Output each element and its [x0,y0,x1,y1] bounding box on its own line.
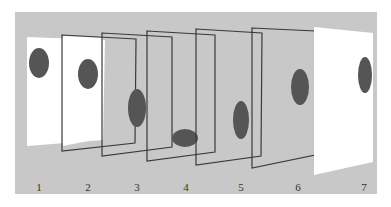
frame-4-blob [172,129,198,147]
frame-2-fill [63,36,103,146]
frame-label-5: 5 [238,181,244,193]
frame-label-6: 6 [295,181,301,193]
frame-7-blob [358,57,372,93]
frame-6-blob [291,69,309,105]
frame-label-4: 4 [183,181,189,193]
frame-2-blob [78,59,98,89]
frame-label-2: 2 [85,181,91,193]
frame-label-1: 1 [36,181,42,193]
frame-1-blob [29,48,49,78]
frame-7-sheet [314,27,373,175]
diagram-canvas: 1 2 3 4 5 6 7 [0,0,391,207]
frame-label-7: 7 [361,181,367,193]
frame-sequence-diagram: 1 2 3 4 5 6 7 [0,0,391,207]
frame-label-3: 3 [134,181,140,193]
frame-5-blob [233,101,249,139]
frame-3-blob [128,89,146,127]
